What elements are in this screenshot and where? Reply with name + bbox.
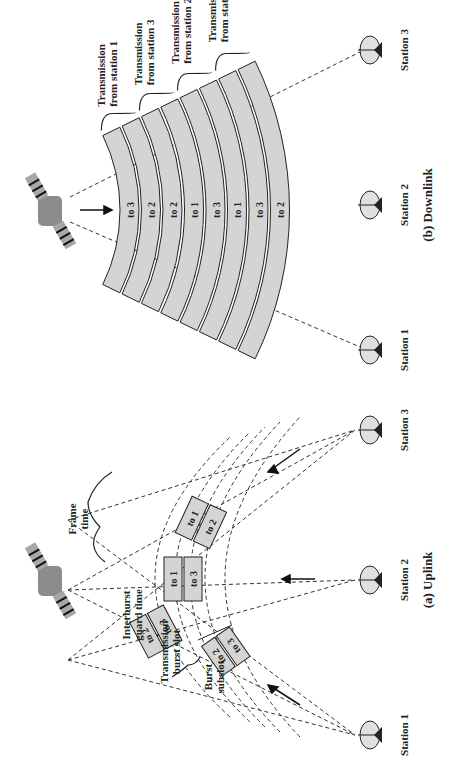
svg-text:to 1: to 1 <box>168 571 179 587</box>
downlink-arrow <box>80 206 112 214</box>
uplink-burst: to 1 to 3 <box>164 557 202 601</box>
guard-time-line2: guard time <box>132 589 144 641</box>
transmission-label: from station 3 <box>144 19 156 85</box>
svg-text:Station 3: Station 3 <box>398 29 410 71</box>
uplink-station-1: Station 1 <box>358 714 410 756</box>
downlink-band-label: to 2 <box>168 202 179 218</box>
burst-slot-line2: burst slot <box>170 630 182 675</box>
downlink-band-label: to 3 <box>254 202 265 218</box>
transmission-label: from station 1 <box>107 41 119 107</box>
downlink-band-label: to 3 <box>211 202 222 218</box>
transmission-label: from station 1 <box>218 0 230 42</box>
svg-text:Station 1: Station 1 <box>398 714 410 756</box>
tdma-diagram: to 2 to 3 to 1 to 3 to 1 to 2 to 2 to 3 <box>0 0 451 777</box>
uplink-station-3: Station 3 <box>358 409 410 451</box>
subslot-line2: subslot <box>214 660 226 693</box>
burst-slot-line1: Transmission <box>158 621 170 684</box>
downlink-band-label: to 3 <box>125 202 136 218</box>
guard-time-line1: Interburst <box>120 590 132 639</box>
transmission-label: Transmission <box>169 1 181 64</box>
svg-text:Station 2: Station 2 <box>398 559 410 601</box>
transmission-label: Transmission <box>95 44 107 107</box>
downlink-bands: to 3to 2to 2to 1to 3to 1to 3to 2 <box>103 61 290 359</box>
svg-text:Station 1: Station 1 <box>398 329 410 371</box>
svg-text:Station 2: Station 2 <box>398 184 410 226</box>
transmission-label: from station 2 <box>181 0 193 64</box>
downlink-band-label: to 2 <box>275 202 286 218</box>
downlink-station-1: Station 1 <box>358 329 410 371</box>
downlink-band-label: to 1 <box>189 202 200 218</box>
uplink-satellite-icon <box>25 542 76 619</box>
transmission-label: Transmission <box>132 23 144 86</box>
uplink-panel: to 2 to 3 to 1 to 3 to 1 to 2 to 2 to 3 <box>25 409 435 756</box>
uplink-arrows <box>268 449 315 705</box>
subslot-line1: Burst <box>202 664 214 691</box>
svg-text:Station 3: Station 3 <box>398 409 410 451</box>
uplink-burst: to 1 to 2 <box>175 496 226 548</box>
svg-text:to 3: to 3 <box>188 571 199 587</box>
frame-time-label: Frame <box>66 503 78 534</box>
downlink-satellite-icon <box>25 172 76 249</box>
downlink-band-label: to 2 <box>146 202 157 218</box>
downlink-band-label: to 1 <box>232 202 243 218</box>
svg-text:time: time <box>78 509 90 530</box>
downlink-caption: (b) Downlink <box>420 168 435 242</box>
frame-time-brace <box>88 472 112 562</box>
uplink-caption: (a) Uplink <box>420 551 435 608</box>
transmission-label: Transmission <box>206 0 218 42</box>
downlink-station-3: Station 3 <box>358 29 410 71</box>
downlink-station-2: Station 2 <box>358 184 410 226</box>
uplink-station-2: Station 2 <box>358 559 410 601</box>
downlink-panel: to 3to 2to 2to 1to 3to 1to 3to 2 Transmi… <box>25 0 435 371</box>
